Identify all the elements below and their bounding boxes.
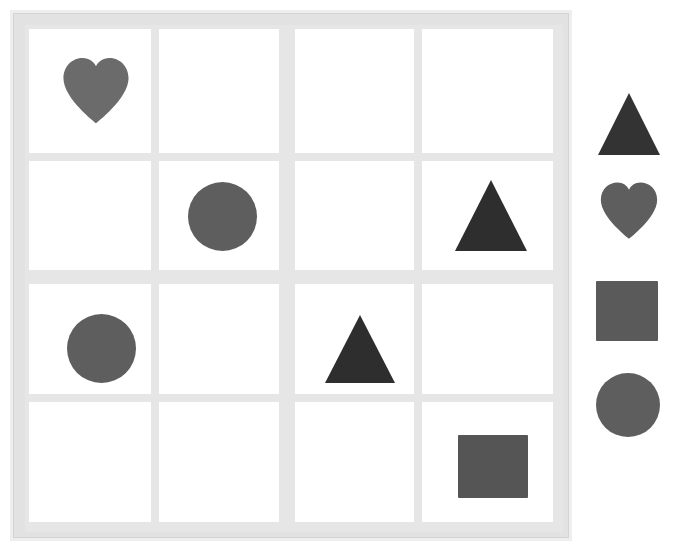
palette-heart-icon[interactable] [597, 180, 661, 242]
grid-cell-r1c3[interactable] [295, 29, 414, 153]
palette-circle-icon[interactable] [596, 373, 660, 437]
triangle-icon[interactable] [325, 315, 395, 383]
triangle-icon[interactable] [455, 180, 527, 251]
puzzle-stage [0, 0, 679, 551]
grid-cell-r3c4[interactable] [422, 284, 553, 394]
palette-triangle-icon[interactable] [598, 93, 660, 155]
grid-cell-r1c4[interactable] [422, 29, 553, 153]
palette-square-icon[interactable] [596, 281, 658, 341]
grid-cell-r2c3[interactable] [295, 161, 414, 270]
circle-icon[interactable] [188, 182, 257, 251]
circle-icon[interactable] [67, 314, 136, 383]
board-frame [10, 10, 572, 541]
shape-palette [588, 80, 674, 445]
grid-cell-r3c2[interactable] [159, 284, 279, 394]
grid-cell-r4c2[interactable] [159, 402, 279, 522]
square-icon[interactable] [458, 435, 528, 498]
grid-cell-r2c1[interactable] [29, 161, 151, 270]
heart-icon[interactable] [59, 55, 133, 127]
grid-cell-r4c1[interactable] [29, 402, 151, 522]
grid-cell-r4c3[interactable] [295, 402, 414, 522]
grid-cell-r1c2[interactable] [159, 29, 279, 153]
